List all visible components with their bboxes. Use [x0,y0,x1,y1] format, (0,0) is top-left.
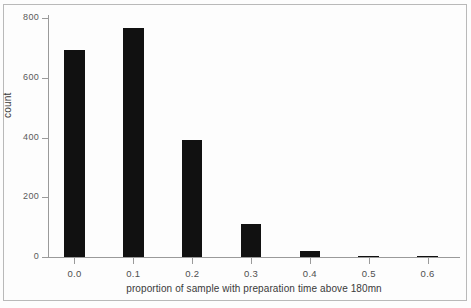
x-tick-mark [310,258,311,264]
plot-area [48,14,460,257]
bar [64,50,85,257]
y-tick-label: 200 [0,191,39,201]
x-tick-mark [74,258,75,264]
y-tick-label: 800 [0,12,39,22]
x-tick-mark [251,258,252,264]
x-tick-label: 0.1 [113,268,153,279]
x-tick-mark [369,258,370,264]
y-tick-label: 0 [0,251,39,261]
x-tick-label: 0.0 [54,268,94,279]
bar [123,28,144,257]
x-axis-line [48,257,460,258]
bar [358,256,379,257]
x-tick-label: 0.4 [290,268,330,279]
bar [300,251,321,257]
x-tick-label: 0.6 [408,268,448,279]
bar [241,224,262,257]
bar [182,140,203,257]
bar [417,256,438,257]
x-tick-label: 0.5 [349,268,389,279]
x-tick-mark [428,258,429,264]
y-axis-title-text: count [2,93,13,118]
y-axis-title: count [2,93,13,118]
x-tick-mark [192,258,193,264]
y-tick-mark [42,257,48,258]
x-tick-label: 0.2 [172,268,212,279]
y-tick-label: 400 [0,132,39,142]
y-tick-label: 600 [0,72,39,82]
histogram-figure: count 0200400600800 0.00.10.20.30.40.50.… [0,0,471,308]
x-tick-label: 0.3 [231,268,271,279]
x-axis-title: proportion of sample with preparation ti… [48,283,460,294]
x-tick-mark [133,258,134,264]
